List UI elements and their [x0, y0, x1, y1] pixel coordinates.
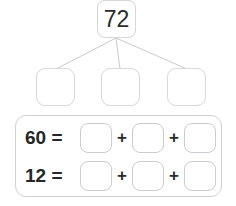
equation-12-plus-1: + [112, 157, 132, 194]
equations-panel: 60 = + + 12 = + + [15, 115, 222, 197]
equation-12-blank-3[interactable] [184, 161, 216, 191]
number-bond-part-box-1[interactable] [36, 68, 75, 106]
equation-12-plus-2: + [164, 157, 184, 194]
equation-60-plus-1: + [112, 119, 132, 156]
number-bond-total-box[interactable]: 72 [97, 0, 136, 38]
equation-row-12: 12 = + + [16, 157, 223, 194]
number-bond-part-box-2[interactable] [101, 68, 140, 106]
equation-label-60: 60 = [25, 119, 63, 156]
equation-row-60: 60 = + + [16, 119, 223, 156]
branch-line-right [116, 38, 187, 69]
equation-60-plus-2: + [164, 119, 184, 156]
equation-12-blank-2[interactable] [132, 161, 164, 191]
equation-60-blank-3[interactable] [184, 123, 216, 153]
number-bond-worksheet: 72 60 = + + 12 = + + [0, 0, 236, 206]
branch-line-left [56, 38, 116, 69]
equation-60-blank-1[interactable] [80, 123, 112, 153]
equation-12-blank-1[interactable] [80, 161, 112, 191]
number-bond-total-value: 72 [104, 8, 130, 31]
number-bond-part-box-3[interactable] [167, 68, 206, 106]
equation-label-12: 12 = [25, 157, 63, 194]
equation-60-blank-2[interactable] [132, 123, 164, 153]
branch-line-middle [116, 38, 120, 69]
